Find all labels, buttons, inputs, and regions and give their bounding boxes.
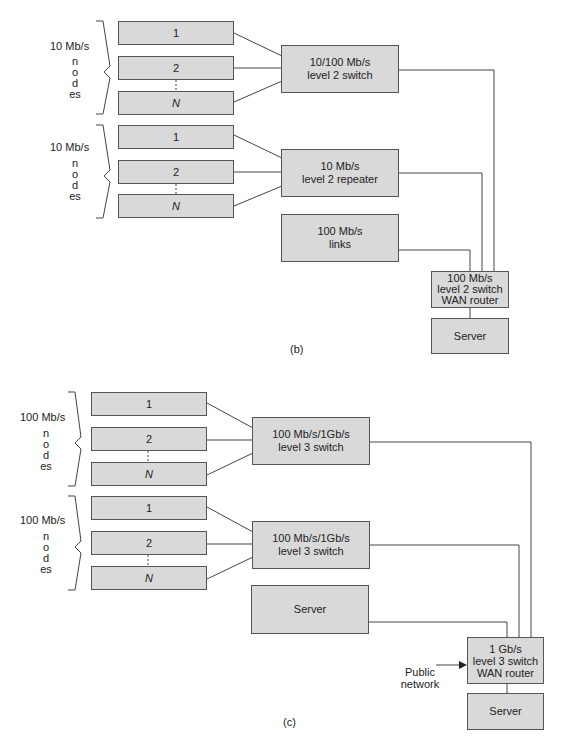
- switch-box: 10/100 Mb/slevel 2 switch: [281, 45, 399, 93]
- caption: (b): [290, 343, 303, 355]
- repeater-box: 10 Mb/slevel 2 repeater: [281, 149, 399, 197]
- node-box: 1: [118, 21, 234, 45]
- group-nodes-label: nodes: [69, 158, 81, 202]
- server-box: Server: [251, 585, 369, 634]
- node-box: N: [118, 91, 234, 115]
- group-speed-label: 10 Mb/s: [50, 40, 89, 52]
- server-box: Server: [431, 318, 509, 354]
- server-box: Server: [467, 693, 544, 730]
- group-nodes-label: nodes: [40, 531, 52, 575]
- router-box: 1 Gb/slevel 3 switchWAN router: [467, 637, 544, 684]
- public-network-label: Publicnetwork: [400, 666, 440, 690]
- router-box: 100 Mb/slevel 2 switchWAN router: [431, 271, 509, 308]
- node-box: 1: [118, 125, 234, 149]
- node-box: N: [118, 194, 234, 218]
- group-speed-label: 100 Mb/s: [20, 411, 65, 423]
- links-box: 100 Mb/slinks: [281, 214, 399, 262]
- node-box: 1: [91, 496, 207, 520]
- group-nodes-label: nodes: [69, 56, 81, 100]
- node-box: 2: [118, 160, 234, 184]
- node-box: N: [91, 462, 207, 486]
- switch-box: 100 Mb/s/1Gb/slevel 3 switch: [252, 521, 370, 569]
- node-box: 2: [118, 56, 234, 80]
- node-box: 2: [91, 531, 207, 555]
- node-box: 1: [91, 392, 207, 416]
- group-speed-label: 100 Mb/s: [20, 514, 65, 526]
- node-box: N: [91, 566, 207, 590]
- node-box: 2: [91, 427, 207, 451]
- group-speed-label: 10 Mb/s: [50, 141, 89, 153]
- switch-box: 100 Mb/s/1Gb/slevel 3 switch: [252, 417, 370, 465]
- caption: (c): [283, 716, 296, 728]
- group-nodes-label: nodes: [40, 428, 52, 472]
